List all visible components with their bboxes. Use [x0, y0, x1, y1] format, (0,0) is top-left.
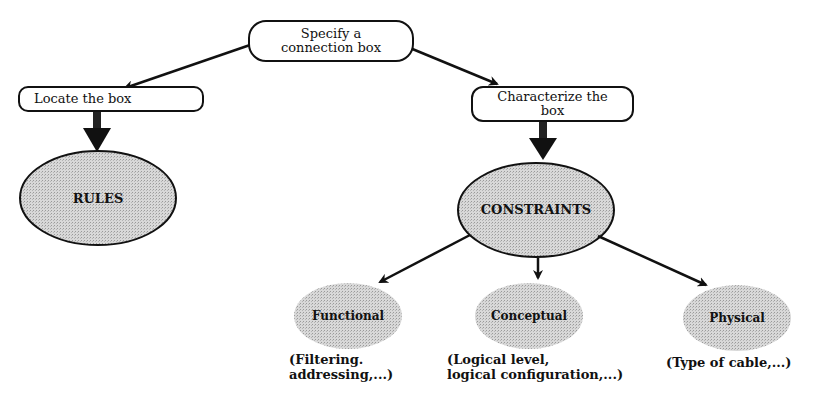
- root-label-line1: Specify a: [281, 27, 381, 41]
- physical-note: (Type of cable,...): [666, 355, 792, 370]
- conceptual-note-line2: logical configuration,...): [447, 367, 623, 382]
- characterize-label-line1: Characterize the: [497, 90, 608, 104]
- arrow-root-to-locate: [125, 45, 250, 88]
- functional-note-line2: addressing,...): [289, 367, 393, 382]
- functional-note: (Filtering. addressing,...): [289, 352, 393, 382]
- thick-arrow-to-rules: [83, 110, 111, 152]
- functional-note-line1: (Filtering.: [289, 352, 393, 367]
- conceptual-note-line1: (Logical level,: [447, 352, 623, 367]
- arrow-to-physical: [598, 236, 706, 285]
- physical-label: Physical: [687, 311, 787, 325]
- arrow-root-to-characterize: [410, 48, 497, 84]
- functional-label: Functional: [298, 309, 398, 323]
- rules-label: RULES: [48, 191, 148, 206]
- thick-arrow-to-constraints: [529, 122, 557, 160]
- characterize-box-node: Characterize the box: [471, 86, 634, 122]
- locate-box-label: Locate the box: [34, 92, 131, 106]
- arrow-to-functional: [380, 235, 470, 282]
- locate-box-node: Locate the box: [18, 86, 204, 112]
- conceptual-label: Conceptual: [479, 309, 579, 323]
- conceptual-note: (Logical level, logical configuration,..…: [447, 352, 623, 382]
- physical-note-line1: (Type of cable,...): [666, 355, 792, 370]
- root-label-line2: connection box: [281, 41, 381, 55]
- constraints-label: CONSTRAINTS: [456, 202, 616, 217]
- concept-diagram: Specify a connection box Locate the box …: [0, 0, 838, 397]
- characterize-label-line2: box: [497, 104, 608, 118]
- root-node: Specify a connection box: [248, 20, 414, 62]
